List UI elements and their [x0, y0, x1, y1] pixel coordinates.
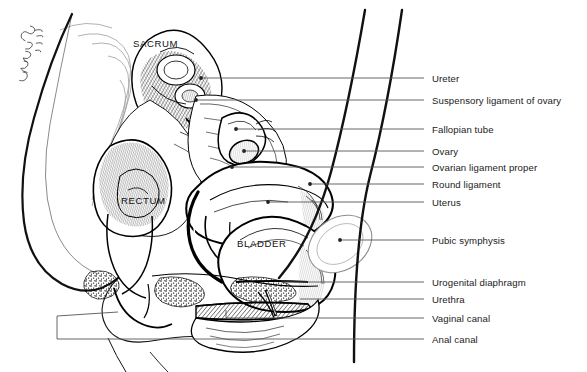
artist-signature — [0, 22, 59, 82]
leader-label-vaginal-canal: Vaginal canal — [432, 314, 490, 324]
thigh-line — [108, 338, 126, 372]
organ-label-sacrum: SACRUM — [133, 39, 178, 49]
leader-label-ureter: Ureter — [432, 74, 459, 84]
thigh-line-2 — [150, 352, 168, 372]
leader-label-ovarian-ligament-proper: Ovarian ligament proper — [432, 163, 537, 173]
leader-dot-suspensory-ligament-ovary — [194, 98, 198, 102]
leader-label-round-ligament: Round ligament — [432, 180, 501, 190]
leader-label-urogenital-diaphragm: Urogenital diaphragm — [432, 278, 526, 288]
leader-dot-fallopian-tube — [234, 127, 238, 131]
leader-label-uterus: Uterus — [432, 198, 461, 208]
leader-label-suspensory-ligament-ovary: Suspensory ligament of ovary — [432, 96, 561, 106]
organ-label-rectum: RECTUM — [121, 196, 166, 206]
leader-dot-ovarian-ligament-proper — [230, 165, 234, 169]
leader-label-pubic-symphysis: Pubic symphysis — [432, 236, 505, 246]
body-outline-left-inner — [45, 14, 98, 274]
leader-dot-uterus — [266, 200, 270, 204]
leader-label-urethra: Urethra — [432, 295, 465, 305]
leader-dot-round-ligament — [308, 182, 312, 186]
organ-label-bladder: BLADDER — [237, 239, 287, 249]
leader-label-fallopian-tube: Fallopian tube — [432, 125, 494, 135]
anatomical-figure: SACRUM RECTUM BLADDER Ureter Suspensory … — [0, 0, 587, 372]
leader-label-anal-canal: Anal canal — [432, 335, 478, 345]
drawing-ink — [0, 10, 424, 372]
leader-dot-ureter — [199, 76, 203, 80]
body-outline-left — [22, 14, 118, 291]
leader-dot-pubic-symphysis — [338, 238, 342, 242]
leader-dot-ovary — [242, 149, 246, 153]
abdominal-wall-inner — [354, 10, 402, 362]
leader-label-ovary: Ovary — [432, 147, 458, 157]
